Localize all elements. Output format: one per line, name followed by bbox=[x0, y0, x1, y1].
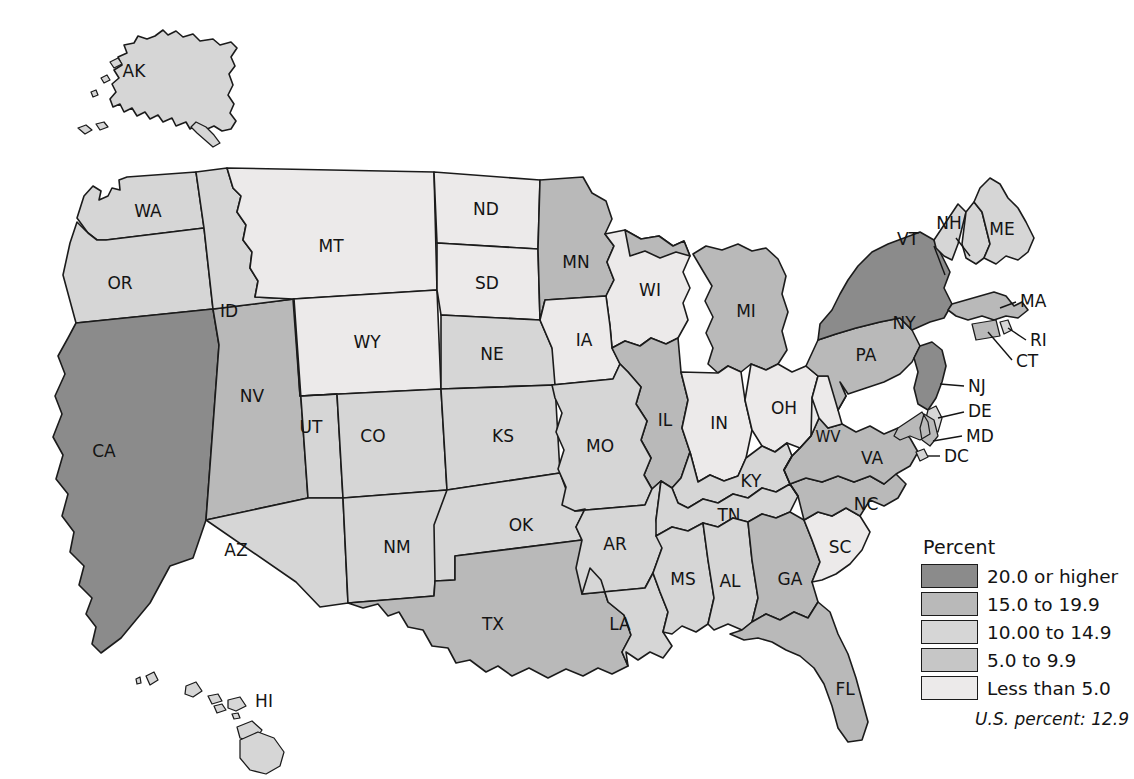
state-shape-HI-5 bbox=[214, 704, 226, 713]
legend-label-c5: 5.0 to 9.9 bbox=[987, 650, 1076, 671]
state-label-TX: TX bbox=[481, 614, 504, 634]
state-group-OR[interactable]: OR bbox=[63, 222, 213, 323]
state-group-KS[interactable]: KS bbox=[441, 385, 560, 490]
state-group-AK[interactable]: AK bbox=[78, 30, 237, 147]
state-group-NJ[interactable] bbox=[914, 342, 946, 410]
state-shape-MT bbox=[227, 168, 437, 299]
legend-swatch-c10 bbox=[921, 620, 978, 644]
state-label-NY: NY bbox=[892, 313, 916, 333]
state-label-IL: IL bbox=[658, 410, 673, 430]
state-label-ND: ND bbox=[473, 199, 499, 219]
state-label-WA: WA bbox=[134, 201, 162, 221]
state-shape-HI-7 bbox=[232, 713, 240, 719]
legend-swatch-c0 bbox=[921, 676, 978, 700]
state-label-AR: AR bbox=[603, 534, 627, 554]
legend-row-c5[interactable]: 5.0 to 9.9 bbox=[921, 648, 1131, 672]
callout-line-RI bbox=[1008, 328, 1026, 340]
state-group-NV[interactable]: NV bbox=[206, 299, 308, 520]
state-shape-HI-4 bbox=[208, 694, 222, 704]
state-label-AL: AL bbox=[719, 571, 741, 591]
state-label-OR: OR bbox=[107, 273, 132, 293]
legend-swatch-c5 bbox=[921, 648, 978, 672]
state-label-AZ: AZ bbox=[224, 540, 247, 560]
callout-label-NH: NH bbox=[936, 213, 962, 233]
state-group-ND[interactable]: ND bbox=[434, 172, 540, 249]
state-shape-HI-big bbox=[240, 732, 284, 774]
state-label-KY: KY bbox=[741, 471, 763, 491]
us-choropleth-map: AK WA OR CA NV ID MT WY UT CO AZ bbox=[0, 0, 1134, 779]
state-group-SD[interactable]: SD bbox=[437, 243, 540, 320]
state-label-LA: LA bbox=[609, 614, 631, 634]
state-group-CT[interactable] bbox=[972, 320, 1000, 340]
state-shape-CA bbox=[53, 309, 219, 653]
state-shape-NJ bbox=[914, 342, 946, 410]
state-shape-HI bbox=[146, 672, 158, 685]
callout-label-CT: CT bbox=[1016, 351, 1039, 371]
state-label-IA: IA bbox=[576, 330, 593, 350]
state-group-RI[interactable] bbox=[1000, 320, 1012, 334]
state-group-WY[interactable]: WY bbox=[293, 290, 441, 396]
callout-label-NJ: NJ bbox=[968, 376, 986, 396]
us-percent-note: U.S. percent: 12.9 bbox=[921, 709, 1131, 729]
state-shape-CT bbox=[972, 320, 1000, 340]
state-label-NM: NM bbox=[383, 537, 410, 557]
state-shape-NV bbox=[206, 299, 308, 520]
callout-line-DE bbox=[938, 412, 964, 418]
callout-label-RI: RI bbox=[1030, 330, 1047, 350]
state-label-PA: PA bbox=[856, 345, 877, 365]
state-shape-FL bbox=[730, 602, 868, 742]
state-shape-MA bbox=[948, 292, 1028, 320]
state-label-AK: AK bbox=[123, 61, 147, 81]
state-shape-AK-aleutians-1 bbox=[78, 125, 92, 134]
state-label-OK: OK bbox=[509, 515, 534, 535]
state-label-MN: MN bbox=[562, 252, 589, 272]
state-group-CA[interactable]: CA bbox=[53, 309, 219, 653]
state-group-HI[interactable]: HI bbox=[136, 672, 284, 774]
legend-row-c15[interactable]: 15.0 to 19.9 bbox=[921, 592, 1131, 616]
state-label-ME: ME bbox=[989, 219, 1014, 239]
state-shape-HI-2 bbox=[136, 677, 141, 684]
state-group-DC[interactable] bbox=[916, 449, 928, 461]
legend-row-c0[interactable]: Less than 5.0 bbox=[921, 676, 1131, 700]
state-label-NC: NC bbox=[854, 494, 879, 514]
state-group-FL[interactable]: FL bbox=[730, 602, 868, 742]
state-group-MT[interactable]: MT bbox=[227, 168, 437, 299]
callout-label-VT: VT bbox=[897, 229, 920, 249]
legend-label-c0: Less than 5.0 bbox=[987, 678, 1111, 699]
state-label-MI: MI bbox=[736, 301, 756, 321]
state-label-MO: MO bbox=[586, 436, 614, 456]
state-shape-DC bbox=[916, 449, 928, 461]
state-label-IN: IN bbox=[710, 413, 728, 433]
state-label-SC: SC bbox=[829, 537, 852, 557]
callout-label-MD: MD bbox=[966, 426, 994, 446]
callout-leaders bbox=[928, 238, 1026, 456]
state-label-FL: FL bbox=[835, 679, 855, 699]
state-label-VA: VA bbox=[861, 448, 884, 468]
state-label-WI: WI bbox=[639, 280, 661, 300]
state-shape-AK-aleutians-2 bbox=[96, 122, 108, 130]
state-label-NV: NV bbox=[240, 386, 265, 406]
state-label-UT: UT bbox=[300, 417, 323, 437]
legend-swatch-c15 bbox=[921, 592, 978, 616]
state-group-MA[interactable] bbox=[948, 292, 1028, 320]
state-label-KS: KS bbox=[492, 426, 514, 446]
legend-label-c10: 10.00 to 14.9 bbox=[987, 622, 1112, 643]
state-label-OH: OH bbox=[771, 398, 797, 418]
legend-swatch-c20 bbox=[921, 564, 978, 588]
state-label-MS: MS bbox=[670, 569, 695, 589]
state-label-ID: ID bbox=[220, 301, 238, 321]
state-shape-RI bbox=[1000, 320, 1012, 334]
state-group-MO[interactable]: MO bbox=[552, 364, 652, 511]
state-label-WY: WY bbox=[353, 332, 381, 352]
state-shape-AK-aleutians-5 bbox=[91, 90, 98, 97]
map-legend: Percent 20.0 or higher 15.0 to 19.9 10.0… bbox=[921, 536, 1131, 729]
legend-row-c20[interactable]: 20.0 or higher bbox=[921, 564, 1131, 588]
callout-label-DE: DE bbox=[968, 401, 992, 421]
callout-line-NJ bbox=[940, 384, 964, 386]
state-label-NE: NE bbox=[480, 344, 503, 364]
callout-label-DC: DC bbox=[944, 446, 969, 466]
state-shape-HI-3 bbox=[185, 682, 202, 697]
legend-row-c10[interactable]: 10.00 to 14.9 bbox=[921, 620, 1131, 644]
state-shape-OR bbox=[63, 222, 213, 323]
legend-title: Percent bbox=[923, 536, 1131, 558]
